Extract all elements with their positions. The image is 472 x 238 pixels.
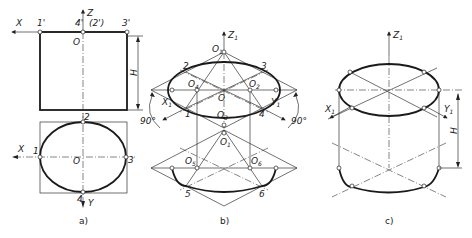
- top-y-label: Y: [88, 198, 95, 208]
- point-3: 3: [128, 155, 134, 165]
- point-4-b: 4: [259, 109, 265, 119]
- point-1-prime: 1': [37, 18, 45, 28]
- o1-label: O1: [212, 44, 223, 55]
- point-6-b: 6: [259, 189, 265, 199]
- top-origin-label: O: [73, 156, 80, 166]
- figure-b: Z1 O1 2 3 O4 O2 O X1 Y1 1 4 O3 O1 O5 O6 …: [140, 30, 307, 226]
- x-axis-label: X: [15, 18, 23, 28]
- caption-b: b): [220, 216, 229, 226]
- figure-a: X Z 1' 4' (2') 3' O H X Y 1 2 3 4 O a): [12, 8, 143, 226]
- angle-right: 90°: [291, 116, 307, 126]
- z-axis-label: Z: [86, 8, 94, 18]
- figure-c: Z1 X1 Y1 H c): [324, 30, 463, 226]
- o5-label: O5: [185, 156, 196, 167]
- point-1-b: 1: [185, 109, 191, 119]
- caption-c: c): [385, 216, 393, 226]
- x1-label-c: X1: [324, 104, 335, 115]
- o-label: O: [218, 93, 225, 103]
- point-2: 2: [84, 112, 90, 122]
- point-5-b: 5: [185, 189, 191, 199]
- point-3-prime: 3': [122, 18, 130, 28]
- o4-label: O4: [188, 79, 199, 90]
- o2-label: O2: [249, 79, 260, 90]
- point-4: 4: [77, 194, 83, 204]
- angle-left: 90°: [140, 116, 156, 126]
- point-2-prime: (2'): [89, 18, 104, 28]
- front-view-rect: [40, 32, 127, 110]
- z1-label-c: Z1: [392, 30, 403, 41]
- cylinder-projection-drawing: X Z 1' 4' (2') 3' O H X Y 1 2 3 4 O a): [0, 0, 472, 238]
- o1b-label: O1: [220, 137, 231, 148]
- o6-label: O6: [251, 156, 262, 167]
- y1-label-c: Y1: [444, 104, 453, 115]
- point-4-prime: 4': [75, 18, 83, 28]
- o3-label: O3: [217, 110, 228, 121]
- z1-label: Z1: [227, 30, 238, 41]
- point-3-b: 3: [261, 61, 267, 71]
- point-2-b: 2: [183, 61, 189, 71]
- dimension-h-label: H: [129, 69, 139, 76]
- top-x-label: X: [17, 144, 25, 154]
- y1-label: Y1: [271, 97, 280, 108]
- point-1: 1: [33, 146, 39, 156]
- diag-2: [328, 68, 437, 119]
- origin-label: O: [73, 37, 80, 47]
- caption-a: a): [79, 216, 88, 226]
- dimension-h-c: H: [449, 127, 459, 134]
- bottom-arc-c: [339, 168, 439, 193]
